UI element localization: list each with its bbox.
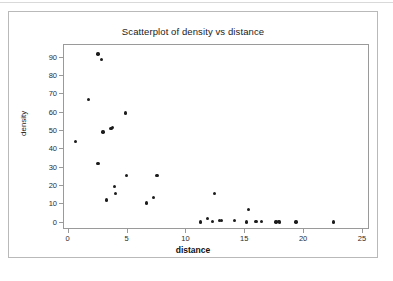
- y-tick-label: 30: [35, 162, 57, 171]
- scatter-point: [100, 58, 103, 61]
- screenshot-page: Scatterplot of density vs distance densi…: [0, 0, 393, 281]
- scatter-point: [96, 162, 99, 165]
- scatter-point: [294, 220, 297, 223]
- scatter-point: [152, 196, 155, 199]
- scatter-point: [105, 198, 108, 201]
- x-tick-mark: [185, 229, 186, 233]
- x-tick-label: 0: [66, 234, 70, 243]
- scatter-point: [254, 220, 257, 223]
- scatter-point: [332, 220, 335, 223]
- scatter-point: [206, 217, 209, 220]
- x-tick-mark: [362, 229, 363, 233]
- scatter-point: [145, 201, 148, 204]
- top-divider: [0, 2, 393, 3]
- y-tick-label: 80: [35, 71, 57, 80]
- scatter-point: [155, 174, 158, 177]
- scatter-point: [233, 219, 236, 222]
- x-tick-label: 10: [181, 234, 189, 243]
- x-tick-label: 15: [240, 234, 248, 243]
- x-tick-label: 25: [358, 234, 366, 243]
- scatter-point: [96, 52, 99, 55]
- scatter-point: [114, 192, 117, 195]
- chart-title: Scatterplot of density vs distance: [9, 26, 377, 37]
- scatter-point: [111, 126, 114, 129]
- x-tick-mark: [68, 229, 69, 233]
- x-tick-mark: [303, 229, 304, 233]
- scatter-point: [247, 208, 250, 211]
- scatter-point: [220, 219, 223, 222]
- y-tick-label: 40: [35, 144, 57, 153]
- scatter-point: [213, 192, 216, 195]
- x-tick-mark: [244, 229, 245, 233]
- figure-panel: Scatterplot of density vs distance densi…: [8, 11, 378, 258]
- y-tick-label: 10: [35, 199, 57, 208]
- y-axis-title: density: [19, 111, 28, 136]
- y-tick-label: 60: [35, 107, 57, 116]
- scatter-point: [211, 220, 214, 223]
- plot-area: [63, 44, 369, 229]
- scatter-point: [101, 130, 104, 133]
- scatter-point: [125, 174, 128, 177]
- y-tick-label: 20: [35, 181, 57, 190]
- scatter-point: [278, 220, 281, 223]
- y-tick-label: 70: [35, 89, 57, 98]
- scatter-point: [260, 220, 263, 223]
- scatter-point: [124, 111, 127, 114]
- x-axis-title: distance: [9, 245, 377, 255]
- scatter-point: [245, 220, 248, 223]
- y-tick-label: 0: [35, 217, 57, 226]
- x-tick-mark: [127, 229, 128, 233]
- x-tick-label: 20: [299, 234, 307, 243]
- scatter-point: [74, 140, 77, 143]
- y-tick-label: 50: [35, 126, 57, 135]
- scatter-point: [199, 220, 202, 223]
- x-tick-label: 5: [124, 234, 128, 243]
- scatter-point: [87, 98, 90, 101]
- y-tick-label: 90: [35, 52, 57, 61]
- scatter-point: [113, 185, 116, 188]
